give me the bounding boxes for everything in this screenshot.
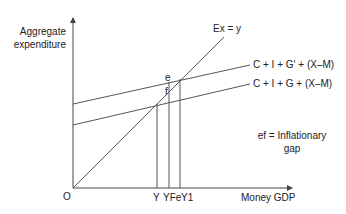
upper-ae-line <box>73 65 250 104</box>
forty-five-degree-line <box>73 37 224 188</box>
x-tick-y: Y <box>153 192 160 203</box>
y-axis-label-line2: expenditure <box>14 39 67 50</box>
lower-ae-line <box>73 84 250 125</box>
origin-label: O <box>63 191 71 202</box>
x-tick-y1: Y1 <box>181 192 194 203</box>
y-axis-label-line1: Aggregate <box>20 26 67 37</box>
point-e-label: e <box>165 72 171 83</box>
point-f-label: f <box>165 86 168 97</box>
x-tick-yfe: YFe <box>163 192 182 203</box>
lower-ae-label: C + I + G + (X–M) <box>253 78 332 89</box>
annotation-line1: ef = Inflationary <box>258 130 327 141</box>
forty-five-line-label: Ex = y <box>213 23 241 34</box>
x-axis-label: Money GDP <box>241 192 296 203</box>
upper-ae-label: C + I + G' + (X–M) <box>253 59 334 70</box>
inflationary-gap-diagram: Aggregate expenditure Money GDP O Ex = y… <box>0 0 346 214</box>
annotation-line2: gap <box>284 143 301 154</box>
